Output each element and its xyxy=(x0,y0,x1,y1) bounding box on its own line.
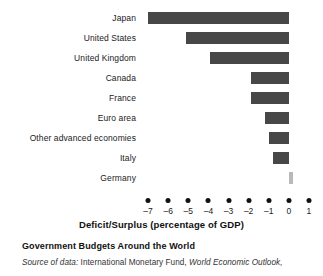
x-tick-dot xyxy=(166,198,171,203)
bar-row: United States xyxy=(0,28,323,48)
bar-row: United Kingdom xyxy=(0,48,323,68)
x-tick-dot xyxy=(246,198,251,203)
category-label: United States xyxy=(84,33,136,43)
x-tick-dot xyxy=(146,198,151,203)
x-tick-label: –3 xyxy=(224,206,233,216)
x-tick-dot xyxy=(186,198,191,203)
category-label: Japan xyxy=(112,13,136,23)
bar xyxy=(265,112,289,124)
category-label: Italy xyxy=(120,153,136,163)
category-label: Germany xyxy=(100,173,136,183)
bar xyxy=(186,32,289,44)
x-tick-dot xyxy=(266,198,271,203)
x-tick-label: –1 xyxy=(264,206,273,216)
x-tick-label: –5 xyxy=(184,206,193,216)
bar-row: Canada xyxy=(0,68,323,88)
bar xyxy=(251,92,289,104)
source-body: International Monetary Fund, xyxy=(78,258,189,267)
x-tick-dot xyxy=(226,198,231,203)
x-tick-label: 1 xyxy=(307,206,312,216)
x-tick-label: –2 xyxy=(244,206,253,216)
bar-row: Japan xyxy=(0,8,323,28)
bar xyxy=(289,172,293,184)
chart-source: Source of data: International Monetary F… xyxy=(22,258,283,267)
bar-row: France xyxy=(0,88,323,108)
category-label: United Kingdom xyxy=(74,53,136,63)
category-label: France xyxy=(109,93,136,103)
bar xyxy=(269,132,289,144)
x-tick-dot xyxy=(306,198,311,203)
x-tick-label: –6 xyxy=(163,206,172,216)
category-label: Euro area xyxy=(98,113,136,123)
chart-figure: JapanUnited StatesUnited KingdomCanadaFr… xyxy=(0,0,323,276)
bar-row: Euro area xyxy=(0,108,323,128)
x-tick-label: –7 xyxy=(143,206,152,216)
plot-area: JapanUnited StatesUnited KingdomCanadaFr… xyxy=(0,8,323,198)
x-tick-dot xyxy=(286,198,291,203)
bar-row: Germany xyxy=(0,168,323,188)
bar xyxy=(210,52,288,64)
bar xyxy=(273,152,289,164)
source-publication: World Economic Outlook, xyxy=(189,258,283,267)
bar xyxy=(148,12,289,24)
x-tick-label: –4 xyxy=(204,206,213,216)
category-label: Other advanced economies xyxy=(30,133,136,143)
x-tick-dot xyxy=(206,198,211,203)
bar xyxy=(251,72,289,84)
category-label: Canada xyxy=(106,73,136,83)
bar-row: Other advanced economies xyxy=(0,128,323,148)
source-lead: Source of data: xyxy=(22,258,78,267)
chart-title: Government Budgets Around the World xyxy=(22,241,195,251)
x-tick-label: 0 xyxy=(286,206,291,216)
bar-row: Italy xyxy=(0,148,323,168)
x-axis-title: Deficit/Surplus (percentage of GDP) xyxy=(0,219,323,230)
